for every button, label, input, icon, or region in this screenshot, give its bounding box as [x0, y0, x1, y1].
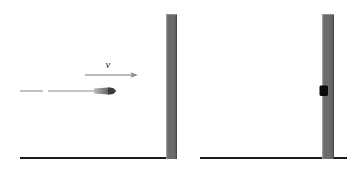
before-impact-panel: v [20, 14, 177, 159]
velocity-symbol-label: v [106, 58, 111, 70]
after-impact-panel [200, 14, 347, 159]
bullet-projectile [94, 87, 116, 94]
diagram-canvas: v [0, 0, 354, 172]
wall-left [166, 14, 177, 159]
velocity-vector: v [85, 58, 138, 78]
physics-diagram-figure: v [0, 0, 354, 172]
embedded-bullet [320, 86, 329, 97]
